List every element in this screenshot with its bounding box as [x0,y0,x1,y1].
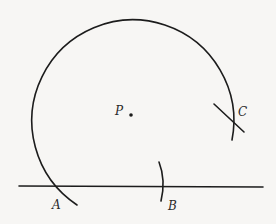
center-point-p [129,113,133,117]
construction-diagram: P A B C [0,0,276,224]
label-a: A [51,198,61,212]
arc-mark-b [159,162,163,201]
circle-arc [32,20,234,205]
label-b: B [167,199,177,213]
label-p: P [114,104,124,118]
horizontal-line [19,186,263,187]
label-c: C [238,105,247,119]
